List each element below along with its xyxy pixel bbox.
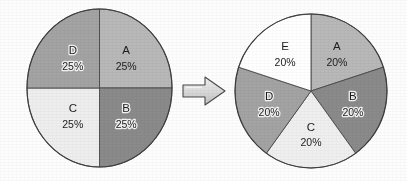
slice-label-name-b: B — [122, 102, 130, 114]
slice-label-name-d: D — [265, 90, 273, 102]
slice-label-value-e: 20% — [275, 56, 296, 68]
right-arrow-icon — [183, 77, 225, 105]
slice-label-value-b: 20% — [342, 106, 363, 118]
slice-label-value-c: 25% — [62, 118, 83, 130]
slice-label-value-c: 20% — [300, 136, 321, 148]
pie-chart-right: A20%B20%C20%D20%E20% — [232, 8, 398, 176]
transform-arrow — [180, 72, 228, 110]
slice-label-name-d: D — [69, 44, 77, 56]
pie-slice-a — [100, 9, 173, 88]
slice-label-name-c: C — [307, 121, 315, 133]
pie-slice-d — [27, 9, 100, 88]
figure-description: A four-segment pie chart with equal 25% … — [0, 0, 1, 1]
slice-label-value-a: 25% — [116, 60, 137, 72]
slice-label-name-a: A — [333, 40, 341, 52]
slice-label-value-d: 25% — [62, 60, 83, 72]
slice-label-value-b: 25% — [116, 118, 137, 130]
figure-canvas: A four-segment pie chart with equal 25% … — [0, 0, 407, 181]
pie-transformation-figure: A four-segment pie chart with equal 25% … — [0, 0, 407, 181]
pie-left-slice-group — [27, 9, 172, 167]
slice-label-name-a: A — [122, 44, 130, 56]
slice-label-value-a: 20% — [326, 56, 347, 68]
slice-label-value-d: 20% — [259, 106, 280, 118]
slice-label-name-b: B — [349, 90, 357, 102]
pie-chart-left: A25%B25%C25%D25% — [22, 4, 182, 176]
slice-label-name-e: E — [281, 40, 289, 52]
slice-label-name-c: C — [69, 102, 77, 114]
